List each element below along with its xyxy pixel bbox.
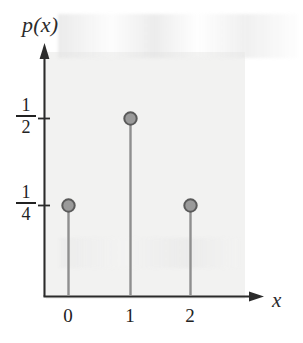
y-tick-label-quarter-numerator: 1 — [16, 183, 36, 201]
probability-mass-function-figure: p(x) x 1 2 1 4 0 1 2 — [0, 0, 303, 343]
y-tick-label-half-numerator: 1 — [16, 96, 36, 114]
stem-lines — [69, 119, 191, 296]
data-point-x2 — [184, 199, 196, 211]
x-axis — [44, 291, 265, 301]
y-axis — [40, 43, 50, 297]
y-axis-arrowhead-icon — [40, 43, 50, 59]
x-tick-label-1: 1 — [118, 305, 142, 327]
plot-canvas — [0, 0, 303, 343]
data-point-x1 — [124, 112, 136, 124]
y-axis-label: p(x) — [22, 12, 58, 38]
x-axis-arrowhead-icon — [249, 291, 264, 301]
x-tick-label-2: 2 — [178, 305, 202, 327]
x-tick-label-0: 0 — [56, 305, 80, 327]
y-tick-label-half-denominator: 2 — [16, 118, 36, 136]
y-tick-label-quarter-denominator: 4 — [16, 205, 36, 223]
y-tick-label-half: 1 2 — [16, 96, 36, 136]
y-tick-label-quarter: 1 4 — [16, 183, 36, 223]
data-point-x0 — [62, 199, 74, 211]
x-axis-label: x — [272, 288, 281, 313]
